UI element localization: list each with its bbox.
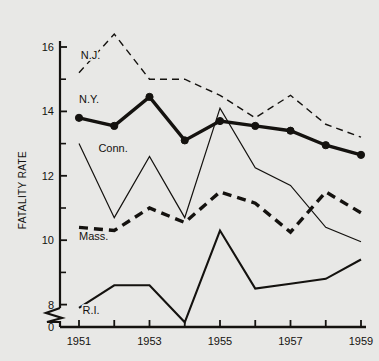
series-marker-ny: [322, 142, 329, 149]
series-label-ny: N.Y.: [79, 93, 99, 105]
axes: 810121416019511953195519571959FATALITY R…: [17, 41, 373, 347]
series-line-conn: [79, 108, 361, 242]
x-tick-label: 1955: [208, 335, 232, 347]
series-label-nj: N.J.: [81, 49, 101, 61]
series-group: [75, 34, 364, 322]
series-marker-ny: [216, 117, 223, 124]
x-tick-label: 1959: [349, 335, 373, 347]
x-tick-label: 1957: [278, 335, 302, 347]
y-tick-label: 16: [42, 41, 54, 53]
x-tick-label: 1951: [67, 335, 91, 347]
series-marker-ny: [75, 114, 82, 121]
series-marker-ny: [252, 122, 259, 129]
y-tick-label: 8: [48, 299, 54, 311]
series-marker-ny: [111, 122, 118, 129]
series-label-ri: R.I.: [83, 304, 100, 316]
series-label-mass: Mass.: [79, 230, 108, 242]
y-tick-label: 10: [42, 234, 54, 246]
y-axis-title: FATALITY RATE: [17, 151, 28, 229]
y-tick-label: 12: [42, 170, 54, 182]
series-line-ri: [79, 231, 361, 323]
chart-figure: 810121416019511953195519571959FATALITY R…: [0, 0, 379, 361]
x-tick-label: 1953: [137, 335, 161, 347]
series-marker-ny: [357, 151, 364, 158]
series-line-mass: [79, 192, 361, 232]
series-marker-ny: [146, 93, 153, 100]
series-label-conn: Conn.: [98, 142, 127, 154]
fatality-rate-line-chart: 810121416019511953195519571959FATALITY R…: [0, 0, 379, 361]
series-marker-ny: [181, 137, 188, 144]
series-marker-ny: [287, 127, 294, 134]
y-tick-label: 14: [42, 105, 54, 117]
y-zero-label: 0: [48, 321, 54, 333]
series-labels: N.J.N.J.N.Y.N.Y.Conn.Conn.Mass.Mass.R.I.…: [79, 49, 128, 315]
